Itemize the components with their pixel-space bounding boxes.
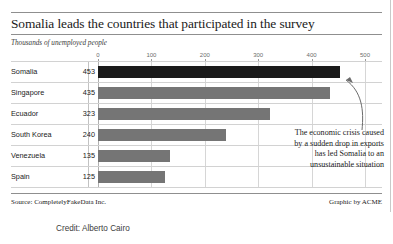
author-credit: Credit: Alberto Cairo	[56, 224, 130, 233]
bar-south-korea	[98, 129, 226, 141]
bar-venezuela	[98, 150, 170, 162]
xtick-label-500: 500	[360, 52, 370, 58]
source-note: Source: CompletelyFakeData Inc.	[11, 198, 106, 206]
annotation-line-3: has led Somalia to an	[238, 149, 384, 160]
category-label: Ecuador	[11, 109, 38, 119]
bar-spain	[98, 171, 165, 183]
category-label: Venezuela	[11, 151, 45, 161]
bar-singapore	[98, 87, 330, 99]
footer-rule	[11, 193, 382, 194]
xtick-label-400: 400	[307, 52, 317, 58]
annotation-text: The economic crisis caused by a sudden d…	[238, 128, 384, 170]
value-label: 240	[69, 130, 95, 140]
xtick-label-300: 300	[253, 52, 263, 58]
value-label: 135	[69, 151, 95, 161]
annotation-arrow-icon	[300, 66, 393, 132]
annotation-line-2: by a sudden drop in exports	[238, 139, 384, 150]
xtick-label-100: 100	[146, 52, 156, 58]
xtick-label-0: 0	[96, 52, 99, 58]
row-separator	[11, 187, 382, 188]
xtick-label-200: 200	[200, 52, 210, 58]
value-label: 323	[69, 109, 95, 119]
bar-ecuador	[98, 108, 270, 120]
category-label: South Korea	[11, 130, 52, 140]
category-label: Spain	[11, 172, 30, 182]
value-label: 435	[69, 88, 95, 98]
value-label: 453	[69, 67, 95, 77]
graphic-credit: Graphic by ACME	[329, 198, 382, 206]
value-label: 125	[69, 172, 95, 182]
category-label: Singapore	[11, 88, 44, 98]
annotation-line-4: unsustainable situation	[238, 160, 384, 171]
category-label: Somalia	[11, 67, 37, 77]
infographic-figure: Somalia leads the countries that partici…	[0, 0, 393, 244]
